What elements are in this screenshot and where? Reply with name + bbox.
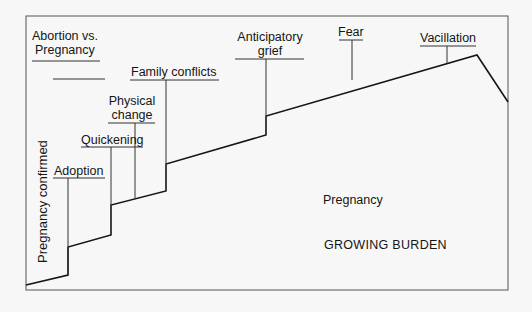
label-quickening: Quickening bbox=[81, 133, 144, 147]
label-family-conflicts: Family conflicts bbox=[131, 65, 216, 79]
label-line: Adoption bbox=[54, 164, 103, 178]
label-line: Pregnancy bbox=[32, 43, 98, 57]
label-growing-burden: GROWING BURDEN bbox=[324, 238, 447, 252]
label-line: Physical bbox=[108, 94, 156, 108]
label-pregnancy: Pregnancy bbox=[323, 193, 383, 207]
label-line: Anticipatory bbox=[234, 30, 306, 44]
label-vacillation: Vacillation bbox=[420, 31, 476, 45]
label-line: Family conflicts bbox=[131, 65, 216, 79]
label-line: Quickening bbox=[81, 133, 144, 147]
label-line: Vacillation bbox=[420, 31, 476, 45]
label-line: Fear bbox=[338, 25, 364, 39]
label-pregnancy-confirmed: Pregnancy confirmed bbox=[35, 140, 50, 263]
label-line: Abortion vs. bbox=[32, 29, 98, 43]
label-fear: Fear bbox=[338, 25, 364, 39]
label-abortion-vs-pregnancy: Abortion vs. Pregnancy bbox=[32, 29, 98, 57]
label-anticipatory-grief: Anticipatory grief bbox=[234, 30, 306, 58]
label-adoption: Adoption bbox=[54, 164, 103, 178]
label-physical-change: Physical change bbox=[108, 94, 156, 122]
label-line: change bbox=[108, 108, 156, 122]
label-line: grief bbox=[234, 44, 306, 58]
diagram: Abortion vs. Pregnancy Adoption Quickeni… bbox=[0, 0, 532, 312]
